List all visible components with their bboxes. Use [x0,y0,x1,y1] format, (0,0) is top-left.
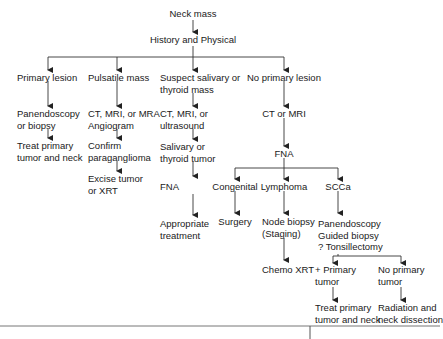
node-treat-primary-tumor-neck: Treat primary tumor and neck [315,302,380,325]
node-node-biopsy: Node biopsy (Staging) [262,216,315,239]
line: ultrasound [160,120,208,132]
node-plus-primary-tumor: + Primary tumor [315,264,356,287]
line: treatment [160,230,209,242]
line: Appropriate [160,218,209,230]
node-fna-salivary: FNA [160,181,179,193]
line: Angiogram [88,120,160,132]
line: (Staging) [262,228,315,240]
line: ? Tonsillectomy [318,241,383,253]
node-excise-tumor: Excise tumor or XRT [88,173,143,196]
node-salivary-thyroid-tumor: Salivary or thyroid tumor [160,141,215,164]
line: or biopsy [17,120,80,132]
line: No primary [378,264,424,276]
line: + Primary [315,264,356,276]
node-surgery: Surgery [218,216,251,228]
line: tumor [378,276,424,288]
line: Confirm [88,140,151,152]
node-no-primary-lesion: No primary lesion [247,72,321,84]
line: thyroid tumor [160,153,215,165]
line: paraganglioma [88,152,151,164]
line: Panendoscopy [318,218,383,230]
line: Treat primary [17,140,82,152]
line: Guided biopsy [318,230,383,242]
node-treat-primary-tumor: Treat primary tumor and neck [17,140,82,163]
node-ct-or-mri: CT or MRI [262,108,306,120]
node-appropriate-treatment: Appropriate treatment [160,218,209,241]
node-panendoscopy-biopsy: Panendoscopy or biopsy [17,108,80,131]
node-panendoscopy-guided-biopsy: Panendoscopy Guided biopsy ? Tonsillecto… [318,218,383,253]
line: neck dissection [378,314,443,326]
node-chemo-xrt: Chemo XRT [262,264,314,276]
line: Node biopsy [262,216,315,228]
node-history-physical: History and Physical [150,34,236,46]
line: CT, MRI, or MRA [88,108,160,120]
node-scca: SCCa [325,181,350,193]
node-lymphoma: Lymphoma [261,181,308,193]
line: Panendoscopy [17,108,80,120]
line: tumor and neck [17,152,82,164]
node-primary-lesion: Primary lesion [17,72,77,84]
node-pulsatile-mass: Pulsatile mass [88,72,149,84]
line: tumor [315,276,356,288]
node-confirm-paraganglioma: Confirm paraganglioma [88,140,151,163]
line: Excise tumor [88,173,143,185]
line: Suspect salivary or [160,72,240,84]
line: Salivary or [160,141,215,153]
line: thyroid mass [160,84,240,96]
node-ct-mri-mra: CT, MRI, or MRA Angiogram [88,108,160,131]
line: tumor and neck [315,314,380,326]
node-neck-mass: Neck mass [170,8,217,20]
node-radiation-neck-dissection: Radiation and neck dissection [378,302,443,325]
node-congenital: Congenital [212,181,257,193]
node-suspect-salivary-thyroid: Suspect salivary or thyroid mass [160,72,240,95]
node-no-primary-tumor: No primary tumor [378,264,424,287]
node-fna: FNA [275,148,294,160]
line: Treat primary [315,302,380,314]
line: or XRT [88,185,143,197]
line: Radiation and [378,302,443,314]
line: CT, MRI, or [160,108,208,120]
node-ct-mri-ultrasound: CT, MRI, or ultrasound [160,108,208,131]
